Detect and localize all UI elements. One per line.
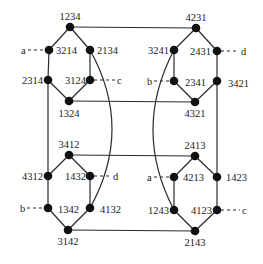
- node-2341: [170, 77, 179, 86]
- node-2143: [191, 227, 200, 236]
- edge-1234-4231: [70, 27, 196, 28]
- node-1342: [44, 204, 53, 213]
- node-label-3241: 3241: [148, 45, 169, 56]
- node-4123: [213, 206, 222, 215]
- node-label-4321: 4321: [185, 108, 206, 119]
- node-label-2431: 2431: [190, 46, 211, 57]
- node-label-4213: 4213: [183, 172, 204, 183]
- edges: [48, 27, 217, 231]
- node-label-1342: 1342: [58, 204, 79, 215]
- node-label-2314: 2314: [22, 75, 44, 86]
- node-1234: [66, 23, 75, 32]
- marker-label-a: a: [147, 172, 152, 183]
- marker-label-c: c: [242, 205, 247, 216]
- node-label-4231: 4231: [186, 12, 207, 23]
- node-1243: [170, 206, 179, 215]
- dashed-markers: acdbdbac: [20, 45, 247, 216]
- marker-label-d: d: [113, 171, 119, 182]
- marker-label-c: c: [117, 75, 122, 86]
- node-2134: [86, 46, 95, 55]
- node-label-2341: 2341: [185, 77, 206, 88]
- node-label-4132: 4132: [100, 204, 121, 215]
- edge-3412-2413: [69, 155, 195, 156]
- node-label-3124: 3124: [65, 75, 87, 86]
- node-4321: [191, 98, 200, 107]
- curved-edge-2134-4132: [90, 50, 112, 208]
- node-label-1234: 1234: [60, 11, 82, 22]
- curved-edges: [90, 50, 174, 210]
- node-label-1423: 1423: [226, 172, 247, 183]
- node-2314: [44, 76, 53, 85]
- node-label-2134: 2134: [97, 45, 119, 56]
- edge-1324-4321: [69, 101, 195, 102]
- edge-3214-2314: [48, 50, 49, 80]
- node-label-3412: 3412: [59, 139, 80, 150]
- marker-label-d: d: [241, 46, 247, 57]
- node-label-2143: 2143: [185, 237, 206, 248]
- node-label-1243: 1243: [148, 205, 169, 216]
- marker-label-a: a: [21, 45, 26, 56]
- node-3421: [213, 77, 222, 86]
- marker-label-b: b: [147, 76, 152, 87]
- node-3214: [45, 46, 54, 55]
- node-4213: [170, 173, 179, 182]
- node-4231: [192, 24, 201, 33]
- node-3412: [65, 151, 74, 160]
- node-label-3421: 3421: [228, 78, 249, 89]
- node-2413: [191, 152, 200, 161]
- node-label-1432: 1432: [65, 171, 86, 182]
- node-4312: [44, 172, 53, 181]
- curved-edge-3241-1243: [153, 50, 174, 210]
- node-3241: [170, 46, 179, 55]
- node-label-3214: 3214: [56, 45, 78, 56]
- edge-3142-2143: [68, 230, 195, 231]
- node-label-2413: 2413: [185, 140, 206, 151]
- node-2431: [213, 47, 222, 56]
- node-1432: [86, 172, 95, 181]
- diagram-canvas: acdbdbac 1234321421342314312413244231324…: [0, 0, 263, 264]
- node-1324: [65, 97, 74, 106]
- marker-label-b: b: [20, 203, 25, 214]
- node-1423: [213, 173, 222, 182]
- permutation-diagram: acdbdbac 1234321421342314312413244231324…: [0, 0, 263, 264]
- node-3142: [64, 226, 73, 235]
- node-label-1324: 1324: [59, 108, 81, 119]
- node-label-4123: 4123: [191, 205, 212, 216]
- node-label-3142: 3142: [58, 236, 79, 247]
- node-4132: [86, 204, 95, 213]
- node-label-4312: 4312: [22, 171, 43, 182]
- node-3124: [86, 76, 95, 85]
